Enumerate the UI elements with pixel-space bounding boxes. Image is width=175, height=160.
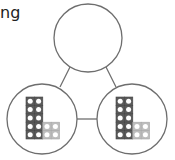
part-whole-diagram [0, 0, 175, 160]
whole-circle [54, 4, 122, 72]
connector-left [60, 67, 70, 87]
connector-right [106, 67, 116, 87]
